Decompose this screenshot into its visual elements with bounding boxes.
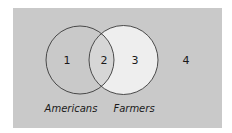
set-americans-label: Americans xyxy=(44,103,98,114)
venn-diagram: 1 2 3 4 Americans Farmers xyxy=(0,0,232,133)
region-4-label: 4 xyxy=(183,54,190,67)
region-2-label: 2 xyxy=(101,54,108,67)
region-3-label: 3 xyxy=(132,54,139,67)
region-1-label: 1 xyxy=(64,54,71,67)
set-farmers-label: Farmers xyxy=(113,103,154,114)
